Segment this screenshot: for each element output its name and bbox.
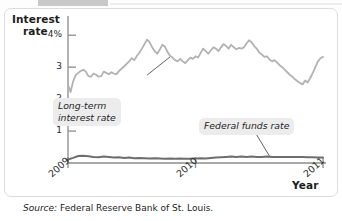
chart-axes	[68, 16, 326, 168]
source-label: Source:	[23, 203, 57, 213]
figure-screenshot: Interest rate Year 1234% 200920102011 Lo…	[0, 0, 342, 221]
y-axis-title-line1: Interest	[12, 13, 60, 25]
y-tick-label: 1	[36, 125, 62, 135]
source-text: Federal Reserve Bank of St. Louis.	[57, 203, 213, 213]
y-tick-label: 3	[36, 61, 62, 71]
annotation-leader-lines	[147, 57, 269, 156]
source-note: Source: Federal Reserve Bank of St. Loui…	[23, 203, 213, 213]
y-tick-label: 4%	[36, 29, 62, 39]
x-axis-title: Year	[292, 179, 318, 191]
callout-long-term-interest-rate: Long-term interest rate	[53, 98, 121, 126]
callout-federal-funds-rate: Federal funds rate	[199, 118, 294, 135]
